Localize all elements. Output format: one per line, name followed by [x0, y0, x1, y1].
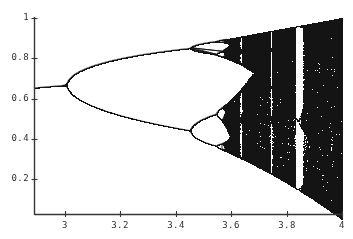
ytick-label-0.4: 0.4 [0, 134, 29, 143]
ytick-label-1: 1 [0, 13, 29, 22]
ytick-label-0.2: 0.2 [0, 174, 29, 183]
bifurcation-plot-canvas [0, 0, 353, 239]
xtick-label-4: 4 [328, 221, 353, 230]
bifurcation-figure: 0.2 0.4 0.6 0.8 1 3 3.2 3.4 3.6 3.8 4 [0, 0, 353, 239]
ytick-label-0.6: 0.6 [0, 94, 29, 103]
xtick-label-3.4: 3.4 [159, 221, 193, 230]
xtick-label-3.8: 3.8 [270, 221, 304, 230]
xtick-label-3: 3 [48, 221, 82, 230]
ytick-label-0.8: 0.8 [0, 53, 29, 62]
xtick-label-3.6: 3.6 [214, 221, 248, 230]
xtick-label-3.2: 3.2 [103, 221, 137, 230]
